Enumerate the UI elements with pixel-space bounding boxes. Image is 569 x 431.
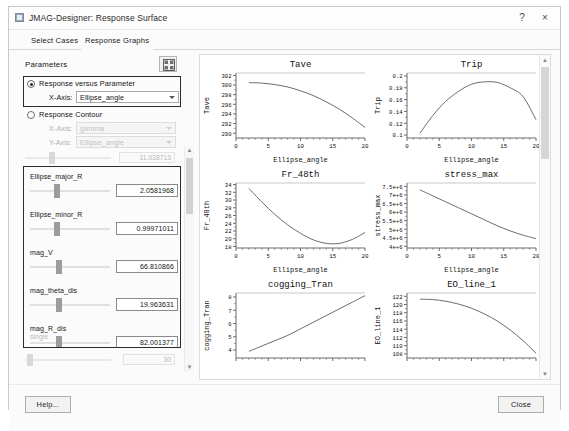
svg-text:10: 10 xyxy=(297,143,304,150)
scroll-up-icon[interactable]: ▲ xyxy=(185,146,194,155)
svg-text:26: 26 xyxy=(225,213,232,220)
slider-label: mag_V xyxy=(30,249,53,256)
svg-text:5: 5 xyxy=(267,253,271,260)
label-response-contour: Response Contour xyxy=(39,110,102,119)
svg-text:5: 5 xyxy=(438,253,442,260)
svg-text:Trip: Trip xyxy=(461,60,483,70)
slider-track[interactable] xyxy=(30,304,110,306)
svg-text:10: 10 xyxy=(297,253,304,260)
svg-text:4e+6: 4e+6 xyxy=(389,244,402,251)
slider-value-text: 0.99971011 xyxy=(137,225,174,232)
svg-text:0.14: 0.14 xyxy=(389,109,403,116)
slider-value-field[interactable]: 19.963631 xyxy=(116,298,178,311)
svg-text:6.5e+6: 6.5e+6 xyxy=(382,201,402,208)
slider-track[interactable] xyxy=(30,342,110,344)
slider-label: Ellipse_minor_R xyxy=(30,211,82,218)
label-response-versus-parameter: Response versus Parameter xyxy=(39,79,135,88)
chart-cogging-tran[interactable]: cogging_Tran45678cogging_Tran xyxy=(200,275,371,380)
slider-thumb[interactable] xyxy=(56,298,62,312)
svg-text:20: 20 xyxy=(362,253,369,260)
parameter-sliders-list: Ellipse_major_R 2.0581968 Ellipse_minor_… xyxy=(23,166,181,348)
slider-track xyxy=(25,359,111,361)
svg-text:15: 15 xyxy=(329,143,336,150)
svg-text:114: 114 xyxy=(392,327,403,334)
slider-value-text: 19.963631 xyxy=(140,301,174,308)
charts-grid: Tave29029229429629830030205101520TaveEll… xyxy=(200,55,542,380)
x-axis-param-select[interactable]: Ellipse_angle xyxy=(76,91,179,103)
chevron-down-icon xyxy=(166,127,172,130)
label-x-axis-contour: X-Axis: xyxy=(49,124,72,133)
svg-text:5: 5 xyxy=(438,143,442,150)
svg-text:5: 5 xyxy=(267,143,271,150)
slider-value-field[interactable]: 0.99971011 xyxy=(116,222,178,235)
svg-text:122: 122 xyxy=(392,294,402,301)
chart-fr-48th[interactable]: Fr_48th18202224262830323405101520Fr_48th… xyxy=(200,165,371,274)
svg-text:10: 10 xyxy=(468,143,475,150)
slider-track[interactable] xyxy=(30,266,110,268)
svg-text:34: 34 xyxy=(225,182,232,189)
slider-row: Ellipse_major_R 2.0581968 xyxy=(24,173,180,211)
grid-icon[interactable] xyxy=(159,56,177,72)
svg-text:18: 18 xyxy=(225,244,232,251)
svg-text:32: 32 xyxy=(225,190,232,197)
label-x-axis-param: X-Axis: xyxy=(49,93,72,102)
radio-response-contour[interactable] xyxy=(27,111,35,119)
svg-text:296: 296 xyxy=(221,102,231,109)
slider-track[interactable] xyxy=(30,228,110,230)
parameters-scrollbar[interactable]: ▲ ▼ xyxy=(184,146,194,372)
help-icon[interactable]: ? xyxy=(512,9,532,27)
svg-text:20: 20 xyxy=(362,143,369,150)
chart-eo-line-1[interactable]: EO_line_1108110112114116118120122EO_line… xyxy=(371,275,542,380)
chart-stress-max[interactable]: stress_max4e+64.5e+65e+65.5e+66e+66.5e+6… xyxy=(371,165,542,274)
scrollbar-thumb[interactable] xyxy=(186,158,193,214)
slider-value-field[interactable]: 82.001377 xyxy=(116,336,178,348)
scroll-up-icon[interactable]: ▲ xyxy=(540,55,550,65)
svg-text:cogging_Tran: cogging_Tran xyxy=(203,300,211,350)
scroll-down-icon[interactable]: ▼ xyxy=(540,369,550,379)
close-button[interactable]: Close xyxy=(498,396,544,413)
svg-text:Ellipse_angle: Ellipse_angle xyxy=(444,266,499,274)
slider-row: mag_theta_dis 19.963631 xyxy=(24,287,180,325)
chart-tave[interactable]: Tave29029229429629830030205101520TaveEll… xyxy=(200,55,371,164)
close-icon[interactable]: × xyxy=(535,9,555,27)
radio-response-versus-parameter[interactable] xyxy=(27,80,35,88)
slider-thumb[interactable] xyxy=(54,222,60,236)
parameters-heading: Parameters xyxy=(25,60,67,69)
slider-thumb[interactable] xyxy=(56,336,62,348)
charts-scrollbar[interactable]: ▲ ▼ xyxy=(539,55,550,379)
partial-slider-bottom-value-text: 30 xyxy=(163,356,171,363)
partial-slider-top-value: 11.038713 xyxy=(119,152,175,163)
slider-track[interactable] xyxy=(30,190,110,192)
svg-text:118: 118 xyxy=(392,310,402,317)
svg-text:300: 300 xyxy=(221,82,232,89)
x-axis-contour-select: gamma xyxy=(76,122,176,134)
x-axis-param-value: Ellipse_angle xyxy=(80,93,124,102)
slider-thumb[interactable] xyxy=(49,152,55,164)
help-button[interactable]: Help... xyxy=(25,396,71,413)
slider-value-field[interactable]: 66.810866 xyxy=(116,260,178,273)
parameters-panel: Parameters Response versus Parameter X-A… xyxy=(21,54,193,380)
scrollbar-thumb[interactable] xyxy=(541,67,549,159)
svg-text:10: 10 xyxy=(468,253,475,260)
svg-text:0.1: 0.1 xyxy=(392,132,403,139)
svg-text:0: 0 xyxy=(234,253,238,260)
chart-trip[interactable]: Trip0.10.120.140.160.180.205101520TripEl… xyxy=(371,55,542,164)
svg-text:Trip: Trip xyxy=(374,97,382,114)
slider-value-text: 82.001377 xyxy=(140,339,174,346)
svg-text:Ellipse_angle: Ellipse_angle xyxy=(273,156,328,164)
slider-thumb[interactable] xyxy=(56,260,62,274)
svg-text:6e+6: 6e+6 xyxy=(389,209,402,216)
svg-text:Fr_48th: Fr_48th xyxy=(203,201,211,230)
tab-select-cases[interactable]: Select Cases xyxy=(27,33,82,49)
slider-label: mag_theta_dis xyxy=(30,287,77,294)
svg-text:6: 6 xyxy=(228,321,231,328)
tab-response-graphs[interactable]: Response Graphs xyxy=(81,33,153,50)
svg-text:112: 112 xyxy=(392,335,402,342)
scroll-down-icon[interactable]: ▼ xyxy=(185,363,194,372)
slider-thumb[interactable] xyxy=(27,354,33,366)
slider-thumb[interactable] xyxy=(54,184,60,198)
slider-label-partial: single xyxy=(30,333,48,340)
svg-text:28: 28 xyxy=(225,205,232,212)
svg-text:116: 116 xyxy=(392,318,402,325)
slider-value-field[interactable]: 2.0581968 xyxy=(116,184,178,197)
